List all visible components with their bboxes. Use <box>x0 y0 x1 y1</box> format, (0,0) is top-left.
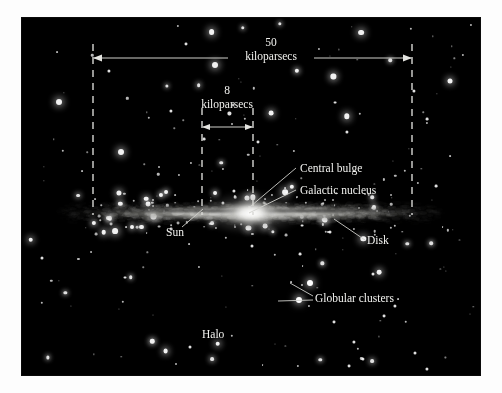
label-galactic-nucleus: Galactic nucleus <box>300 184 376 196</box>
scale-arrowhead-8-left <box>202 124 210 130</box>
leader-line-sun <box>182 209 203 227</box>
annotation-lines-layer <box>22 18 480 375</box>
scale-arrowhead-50-right <box>403 55 412 62</box>
scale-arrowhead-8-right <box>245 124 253 130</box>
sky-panel: 50 kiloparsecs 8 kiloparsecs Central bul… <box>22 18 480 375</box>
leader-line-globular-cluster-lower <box>278 300 313 301</box>
leader-line-globular-cluster-upper <box>290 283 313 296</box>
galaxy-diagram-page: 50 kiloparsecs 8 kiloparsecs Central bul… <box>0 0 502 393</box>
scale-label-50-unit: kiloparsecs <box>245 50 297 62</box>
scale-label-8-value: 8 <box>224 84 230 96</box>
scale-label-50-value: 50 <box>265 36 277 48</box>
label-sun: Sun <box>166 226 184 238</box>
scale-label-8-unit: kiloparsecs <box>201 98 253 110</box>
label-halo: Halo <box>202 328 224 340</box>
leader-line-central-bulge <box>251 168 296 206</box>
label-globular-clusters: Globular clusters <box>315 292 394 304</box>
label-central-bulge: Central bulge <box>300 162 362 174</box>
leader-line-disk <box>334 219 365 240</box>
label-disk: Disk <box>367 234 389 246</box>
scale-arrowhead-50-left <box>93 55 102 62</box>
